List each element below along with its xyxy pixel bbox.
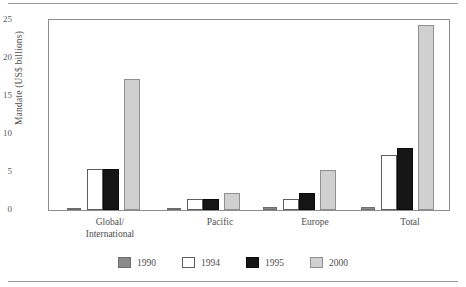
- legend-item-1995: 1995: [246, 257, 284, 268]
- bar-pacific-1990: [167, 208, 181, 210]
- y-tick-label-5: 5: [0, 167, 12, 176]
- legend-label-2000: 2000: [329, 258, 348, 268]
- y-tick-label-10: 10: [0, 129, 12, 138]
- legend-label-1995: 1995: [265, 258, 284, 268]
- bottom-divider-rule: [8, 281, 458, 282]
- bar-europe-1995: [299, 193, 315, 210]
- chart-legend: 1990 1994 1995 2000: [0, 257, 466, 268]
- bar-europe-1990: [263, 207, 277, 210]
- bar-globalinternational-1994: [87, 169, 103, 210]
- bar-europe-2000: [320, 170, 336, 210]
- gray-swatch-icon: [118, 257, 131, 268]
- x-tick-label-total: Total: [340, 216, 466, 228]
- bar-globalinternational-1995: [103, 169, 119, 210]
- y-tick-label-15: 15: [0, 91, 12, 100]
- bar-pacific-1994: [187, 199, 203, 210]
- white-swatch-icon: [182, 257, 195, 268]
- y-tick-label-20: 20: [0, 53, 12, 62]
- light-gray-swatch-icon: [310, 257, 323, 268]
- bar-pacific-1995: [203, 199, 219, 210]
- black-swatch-icon: [246, 257, 259, 268]
- legend-item-1994: 1994: [182, 257, 220, 268]
- y-axis-title: Mandate (US$ billions): [14, 0, 24, 173]
- y-tick-label-0: 0: [0, 205, 12, 214]
- bar-europe-1994: [283, 199, 299, 210]
- plot-area: [48, 19, 450, 211]
- legend-item-2000: 2000: [310, 257, 348, 268]
- y-tick-label-25: 25: [0, 15, 12, 24]
- bar-globalinternational-1990: [67, 208, 81, 210]
- bar-pacific-2000: [224, 193, 240, 210]
- legend-item-1990: 1990: [118, 257, 156, 268]
- bar-total-1995: [397, 148, 413, 210]
- bar-chart-figure: Mandate (US$ billions) 25 20 15 10 5 0 G…: [0, 0, 466, 287]
- bar-total-2000: [418, 25, 434, 210]
- top-divider-rule: [8, 3, 458, 4]
- bar-total-1994: [381, 155, 397, 210]
- bar-globalinternational-2000: [124, 79, 140, 210]
- legend-label-1994: 1994: [201, 258, 220, 268]
- legend-label-1990: 1990: [137, 258, 156, 268]
- bar-total-1990: [361, 207, 375, 210]
